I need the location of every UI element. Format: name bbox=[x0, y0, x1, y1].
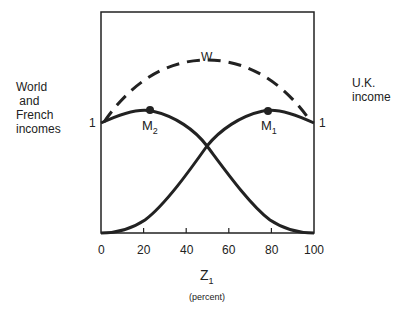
left-label-line: incomes bbox=[16, 122, 61, 136]
x-axis-label: Z1 bbox=[200, 268, 214, 288]
x-tick-label: 20 bbox=[137, 243, 150, 257]
m2-base: M bbox=[142, 118, 153, 133]
left-value-label: 1 bbox=[89, 116, 96, 130]
x-tick-label: 100 bbox=[304, 243, 324, 257]
x-tick-label: 80 bbox=[265, 243, 278, 257]
x-tick-label: 40 bbox=[180, 243, 193, 257]
right-label-line: U.K. bbox=[352, 76, 391, 90]
plot-frame bbox=[101, 12, 314, 233]
left-label-line: and bbox=[16, 94, 61, 108]
world-income-curve bbox=[104, 60, 311, 122]
x-axis-base: Z bbox=[200, 267, 209, 283]
m2-label: M2 bbox=[142, 119, 158, 138]
m1-sub: 1 bbox=[272, 126, 277, 136]
right-axis-label: U.K. income bbox=[352, 76, 391, 104]
x-axis-sub: 1 bbox=[209, 276, 214, 286]
right-value-label: 1 bbox=[319, 116, 326, 130]
m2-sub: 2 bbox=[153, 126, 158, 136]
left-label-line: French bbox=[16, 108, 61, 122]
x-tick-label: 60 bbox=[222, 243, 235, 257]
point-m2 bbox=[146, 106, 154, 114]
left-label-line: World bbox=[16, 80, 61, 94]
french-income-curve bbox=[101, 110, 314, 233]
uk-income-curve bbox=[101, 110, 314, 233]
m1-base: M bbox=[261, 118, 272, 133]
curve-w-label: W bbox=[201, 50, 212, 64]
left-axis-label: World and French incomes bbox=[16, 80, 61, 136]
right-label-line: income bbox=[352, 90, 391, 104]
point-m1 bbox=[264, 107, 272, 115]
x-axis-unit: (percent) bbox=[189, 290, 225, 304]
x-tick-label: 0 bbox=[98, 243, 105, 257]
m1-label: M1 bbox=[261, 119, 277, 138]
